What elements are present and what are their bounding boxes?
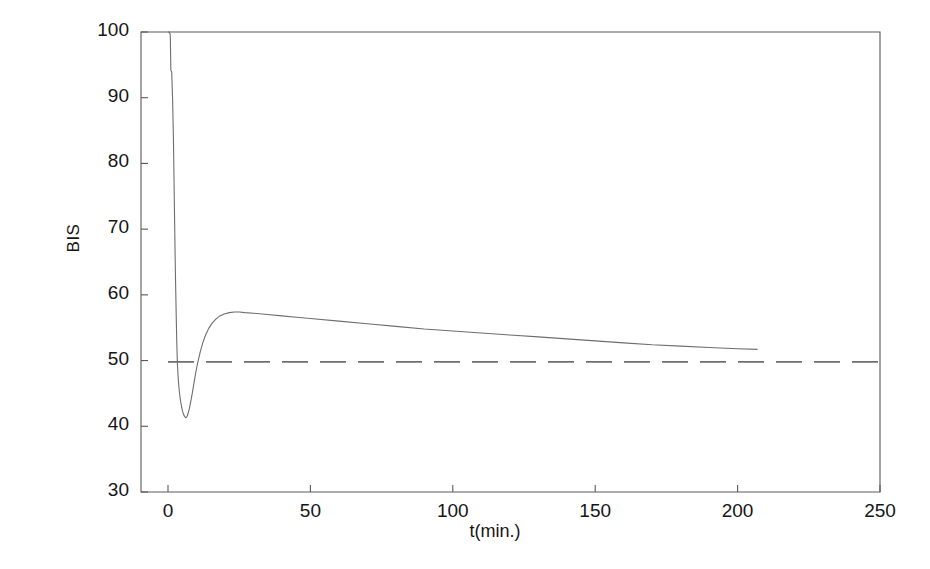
x-tick-label: 150 bbox=[565, 500, 625, 522]
x-axis-title: t(min.) bbox=[0, 521, 930, 542]
series-bis-response bbox=[168, 32, 758, 418]
x-tick-label: 250 bbox=[850, 500, 910, 522]
y-tick-label: 100 bbox=[69, 19, 129, 41]
y-tick-label: 30 bbox=[69, 479, 129, 501]
x-tick-label: 50 bbox=[280, 500, 340, 522]
x-axis-title-text: t(min.) bbox=[470, 521, 521, 541]
x-tick-label: 100 bbox=[423, 500, 483, 522]
plot-canvas bbox=[0, 0, 930, 569]
bis-time-chart: BIS t(min.) 3040506070809010005010015020… bbox=[0, 0, 930, 569]
y-tick-label: 70 bbox=[69, 216, 129, 238]
y-tick-label: 40 bbox=[69, 413, 129, 435]
y-tick-label: 80 bbox=[69, 150, 129, 172]
x-tick-label: 200 bbox=[708, 500, 768, 522]
y-tick-label: 60 bbox=[69, 282, 129, 304]
y-tick-label: 50 bbox=[69, 348, 129, 370]
y-tick-label: 90 bbox=[69, 85, 129, 107]
plot-frame bbox=[141, 32, 880, 492]
x-tick-label: 0 bbox=[138, 500, 198, 522]
